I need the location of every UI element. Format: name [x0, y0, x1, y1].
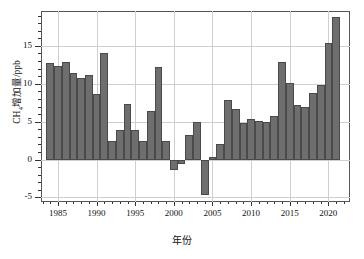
- x-tick-minor: [120, 202, 121, 204]
- x-tick-label: 2015: [270, 208, 310, 218]
- y-tick-major: [35, 160, 41, 161]
- bar-2015: [286, 83, 294, 160]
- x-tick-minor: [274, 202, 275, 204]
- bar-2012: [263, 122, 271, 160]
- bar-2007: [224, 100, 232, 160]
- bar-2008: [232, 109, 240, 160]
- x-tick-minor: [236, 202, 237, 204]
- bar-2020: [325, 43, 333, 160]
- x-tick-minor: [267, 202, 268, 204]
- bar-2002: [185, 135, 193, 160]
- bar-1990: [93, 94, 101, 160]
- x-tick-minor: [112, 202, 113, 204]
- x-tick-minor: [259, 202, 260, 204]
- y-tick-minor: [38, 167, 41, 168]
- y-tick-minor: [38, 144, 41, 145]
- x-tick-major: [97, 202, 98, 206]
- bar-2021: [332, 17, 340, 159]
- bar-2014: [278, 62, 286, 160]
- x-tick-minor: [143, 202, 144, 204]
- bar-1998: [155, 67, 163, 159]
- y-axis-title-suffix: 增加量/ppb: [12, 60, 22, 107]
- bar-1986: [62, 62, 70, 160]
- y-tick-minor: [38, 76, 41, 77]
- y-tick-label: -5: [0, 192, 32, 201]
- bar-1993: [116, 130, 124, 160]
- bar-1992: [108, 141, 116, 159]
- bar-1984: [46, 63, 54, 160]
- bar-1997: [147, 111, 155, 160]
- bar-1999: [162, 141, 170, 160]
- x-tick-minor: [243, 202, 244, 204]
- y-tick-minor: [38, 38, 41, 39]
- bar-1989: [85, 75, 93, 159]
- x-tick-minor: [228, 202, 229, 204]
- y-tick-minor: [38, 152, 41, 153]
- y-tick-minor: [38, 107, 41, 108]
- bar-2016: [294, 105, 302, 160]
- x-tick-label: 1995: [115, 208, 155, 218]
- y-tick-major: [35, 197, 41, 198]
- bar-2011: [255, 121, 263, 160]
- y-axis-title: CH4增加量/ppb: [9, 27, 25, 157]
- bar-2017: [301, 107, 309, 160]
- y-axis-title-subscript: 4: [17, 107, 25, 111]
- bar-1985: [54, 66, 62, 159]
- x-tick-minor: [104, 202, 105, 204]
- bar-2009: [240, 123, 248, 159]
- bar-2001: [178, 160, 186, 165]
- figure-container: -5051015 1985199019952000200520102015202…: [0, 0, 364, 259]
- bar-2003: [193, 122, 201, 159]
- y-tick-minor: [38, 190, 41, 191]
- bar-2010: [247, 119, 255, 160]
- bar-2005: [209, 157, 217, 160]
- bar-2006: [216, 144, 224, 159]
- x-tick-minor: [197, 202, 198, 204]
- x-tick-minor: [89, 202, 90, 204]
- y-tick-minor: [38, 182, 41, 183]
- x-tick-major: [251, 202, 252, 206]
- x-tick-major: [212, 202, 213, 206]
- x-tick-minor: [151, 202, 152, 204]
- bar-2013: [270, 116, 278, 160]
- x-tick-minor: [81, 202, 82, 204]
- x-tick-label: 2005: [192, 208, 232, 218]
- x-tick-label: 2000: [154, 208, 194, 218]
- x-tick-label: 1985: [38, 208, 78, 218]
- x-tick-minor: [128, 202, 129, 204]
- x-tick-major: [290, 202, 291, 206]
- x-tick-minor: [158, 202, 159, 204]
- y-tick-minor: [38, 91, 41, 92]
- y-tick-minor: [38, 129, 41, 130]
- x-tick-minor: [305, 202, 306, 204]
- x-tick-label: 2010: [231, 208, 271, 218]
- y-tick-major: [35, 46, 41, 47]
- y-tick-minor: [38, 137, 41, 138]
- x-tick-minor: [313, 202, 314, 204]
- bar-2019: [317, 85, 325, 160]
- x-tick-label: 2020: [308, 208, 348, 218]
- x-tick-minor: [182, 202, 183, 204]
- y-tick-minor: [38, 175, 41, 176]
- x-tick-minor: [50, 202, 51, 204]
- x-tick-minor: [220, 202, 221, 204]
- bar-2004: [201, 160, 209, 196]
- y-tick-minor: [38, 99, 41, 100]
- x-tick-major: [58, 202, 59, 206]
- x-tick-minor: [344, 202, 345, 204]
- bar-1994: [124, 104, 132, 159]
- x-axis-title: 年份: [0, 232, 364, 247]
- x-tick-minor: [189, 202, 190, 204]
- y-axis-title-prefix: CH: [12, 111, 22, 124]
- x-tick-minor: [73, 202, 74, 204]
- x-tick-minor: [297, 202, 298, 204]
- bar-1991: [100, 53, 108, 160]
- y-tick-major: [35, 84, 41, 85]
- bar-1995: [131, 130, 139, 160]
- y-tick-major: [35, 122, 41, 123]
- bars-layer: [41, 11, 350, 202]
- y-tick-minor: [38, 16, 41, 17]
- x-tick-minor: [321, 202, 322, 204]
- bar-1988: [77, 78, 85, 160]
- x-tick-minor: [43, 202, 44, 204]
